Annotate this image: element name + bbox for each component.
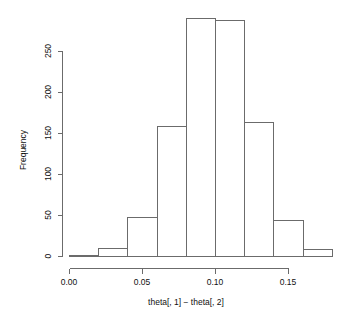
- y-tick-label-50: 50: [43, 210, 53, 220]
- y-axis-ticks: [58, 52, 63, 257]
- x-tick-label-015: 0.15: [280, 277, 297, 287]
- y-axis-tick-labels: 0 50 100 150 200 250: [43, 44, 53, 259]
- x-tick-label-005: 0.05: [134, 277, 151, 287]
- y-tick-label-150: 150: [43, 126, 53, 140]
- y-tick-label-200: 200: [43, 85, 53, 99]
- histogram-bar: [216, 20, 245, 256]
- histogram-bar: [99, 248, 128, 256]
- x-axis-ticks: [70, 269, 289, 274]
- histogram-plot: 0 50 100 150 200 250 Frequency 0.00 0.05…: [0, 0, 348, 324]
- y-tick-label-250: 250: [43, 44, 53, 58]
- histogram-bar: [128, 217, 157, 256]
- histogram-bar: [70, 256, 99, 257]
- histogram-bar: [303, 249, 332, 256]
- y-tick-label-100: 100: [43, 167, 53, 181]
- x-axis-tick-labels: 0.00 0.05 0.10 0.15: [61, 277, 297, 287]
- x-tick-label-000: 0.00: [61, 277, 78, 287]
- histogram-bar: [245, 123, 274, 257]
- histogram-bar: [274, 220, 303, 256]
- x-tick-label-010: 0.10: [207, 277, 224, 287]
- x-axis-title: theta[, 1] − theta[, 2]: [148, 297, 224, 307]
- y-axis-title: Frequency: [18, 129, 28, 170]
- histogram-bars: [70, 19, 333, 257]
- y-tick-label-0: 0: [43, 253, 53, 258]
- histogram-canvas: 0 50 100 150 200 250 Frequency 0.00 0.05…: [0, 0, 348, 324]
- histogram-bar: [186, 19, 215, 257]
- histogram-bar: [157, 126, 186, 256]
